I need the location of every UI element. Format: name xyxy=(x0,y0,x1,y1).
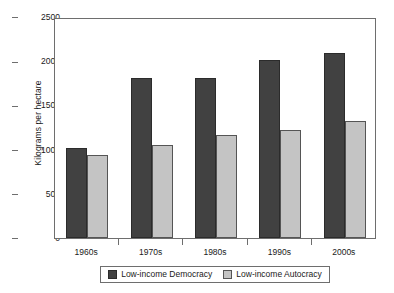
bar-1960s-autocracy xyxy=(87,155,108,238)
x-tick-mark xyxy=(247,239,248,245)
x-tick-label: 1960s xyxy=(56,248,116,257)
bar-1980s-democracy xyxy=(195,78,216,238)
y-tick-mark xyxy=(12,17,18,18)
y-tick-mark xyxy=(12,62,18,63)
x-tick-mark xyxy=(311,239,312,245)
legend-label: Low-income Autocracy xyxy=(236,270,322,279)
bar-1990s-autocracy xyxy=(280,130,301,238)
y-tick-mark xyxy=(12,194,18,195)
x-tick-mark xyxy=(118,239,119,245)
y-tick-mark xyxy=(12,238,18,239)
bar-2000s-democracy xyxy=(324,53,345,238)
bar-1960s-democracy xyxy=(66,148,87,238)
bar-chart: Kilograms per hectare 050010001500200025… xyxy=(0,0,394,293)
x-tick-label: 1980s xyxy=(185,248,245,257)
legend-label: Low-income Democracy xyxy=(121,270,212,279)
legend-swatch-icon xyxy=(108,270,117,279)
bar-1990s-democracy xyxy=(259,60,280,238)
bar-1970s-autocracy xyxy=(152,145,173,238)
x-tick-label: 2000s xyxy=(314,248,374,257)
legend-item-democracy: Low-income Democracy xyxy=(108,270,212,279)
y-tick-mark xyxy=(12,106,18,107)
plot-area xyxy=(54,18,376,239)
legend-swatch-icon xyxy=(223,270,232,279)
x-tick-label: 1990s xyxy=(249,248,309,257)
x-tick-label: 1970s xyxy=(121,248,181,257)
bar-1970s-democracy xyxy=(131,78,152,238)
bar-2000s-autocracy xyxy=(345,121,366,238)
y-tick-mark xyxy=(12,150,18,151)
chart-legend: Low-income DemocracyLow-income Autocracy xyxy=(100,266,330,283)
x-tick-mark xyxy=(182,239,183,245)
legend-item-autocracy: Low-income Autocracy xyxy=(223,270,322,279)
bar-1980s-autocracy xyxy=(216,135,237,238)
